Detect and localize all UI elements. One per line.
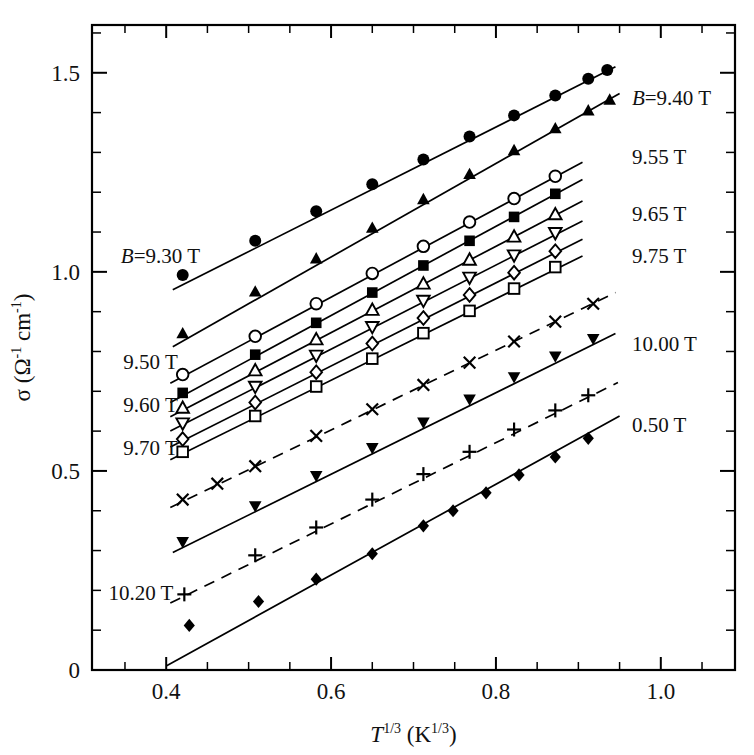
data-point <box>311 381 322 392</box>
series-label: 9.55 T <box>632 145 687 169</box>
sigma-vs-T13-plot: 0.40.60.81.0 00.51.01.5 B=9.30 T9.50 T9.… <box>0 0 754 755</box>
data-point <box>366 178 378 190</box>
y-tick-label: 0.5 <box>51 459 80 484</box>
series-label: 9.60 T <box>123 393 178 417</box>
data-point <box>601 64 613 76</box>
figure-root: 0.40.60.81.0 00.51.01.5 B=9.30 T9.50 T9.… <box>0 0 754 755</box>
data-point <box>418 328 429 339</box>
data-point <box>177 388 188 399</box>
data-point <box>310 205 322 217</box>
data-point <box>509 212 520 223</box>
data-point <box>249 235 261 247</box>
data-point <box>549 170 561 182</box>
data-point <box>311 318 322 329</box>
data-point <box>177 269 189 281</box>
data-point <box>250 411 261 422</box>
data-point <box>177 447 188 458</box>
data-point <box>418 260 429 271</box>
series-label: B=9.40 T <box>632 86 711 110</box>
y-tick-label: 1.5 <box>51 61 80 86</box>
data-point <box>464 306 475 317</box>
data-point <box>464 130 476 142</box>
x-tick-label: 1.0 <box>646 679 675 704</box>
data-point <box>417 154 429 166</box>
series-label: 9.75 T <box>632 244 687 268</box>
data-point <box>582 73 594 85</box>
series-label: B=9.30 T <box>121 244 200 268</box>
data-point <box>250 349 261 360</box>
data-point <box>249 331 261 343</box>
data-point <box>464 216 476 228</box>
figure-background <box>0 0 754 755</box>
data-point <box>509 283 520 294</box>
x-tick-label: 0.4 <box>152 679 181 704</box>
x-tick-label: 0.6 <box>317 679 346 704</box>
data-point <box>310 298 322 310</box>
series-label: 0.50 T <box>632 413 687 437</box>
data-point <box>550 189 561 200</box>
series-label: 9.50 T <box>123 350 178 374</box>
data-point <box>366 268 378 280</box>
series-label: 9.70 T <box>123 436 178 460</box>
series-label: 10.20 T <box>108 581 173 605</box>
data-point <box>367 287 378 298</box>
data-point <box>367 353 378 364</box>
y-tick-label: 0 <box>69 658 81 683</box>
series-label: 10.00 T <box>632 332 697 356</box>
data-point <box>508 109 520 121</box>
x-tick-label: 0.8 <box>482 679 511 704</box>
series-label: 9.65 T <box>632 202 687 226</box>
data-point <box>418 241 430 253</box>
data-point <box>508 193 520 205</box>
data-point <box>550 262 561 273</box>
data-point <box>464 235 475 246</box>
y-tick-label: 1.0 <box>51 260 80 285</box>
data-point <box>177 369 189 381</box>
data-point <box>549 89 561 101</box>
